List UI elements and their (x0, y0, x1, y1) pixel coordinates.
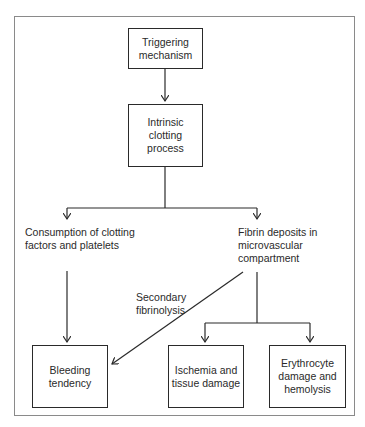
node-bleeding-tendency: Bleeding tendency (32, 345, 108, 408)
node-text: compartment (238, 252, 317, 265)
node-ischemia-tissue-damage: Ischemia and tissue damage (168, 345, 244, 408)
node-text: tissue damage (172, 377, 240, 390)
node-text: Ischemia and (172, 364, 240, 377)
node-erythrocyte-damage-hemolysis: Erythrocyte damage and hemolysis (269, 345, 346, 408)
edge-text: fibrinolysis (136, 304, 186, 317)
node-triggering-mechanism: Triggering mechanism (128, 28, 203, 69)
node-text: factors and platelets (25, 239, 135, 252)
edge-text: Secondary (136, 291, 186, 304)
edge-label-secondary-fibrinolysis: Secondary fibrinolysis (136, 291, 186, 317)
node-text: tendency (49, 377, 92, 390)
node-text: Fibrin deposits in (238, 226, 317, 239)
node-text: Bleeding (49, 364, 92, 377)
node-text: Triggering (139, 36, 193, 49)
node-text: Intrinsic (147, 116, 184, 129)
node-text: microvascular (238, 239, 317, 252)
node-text: Consumption of clotting (25, 226, 135, 239)
node-text: clotting (147, 129, 184, 142)
node-consumption-of-clotting-factors: Consumption of clotting factors and plat… (25, 226, 135, 252)
node-text: Erythrocyte (278, 357, 336, 370)
node-intrinsic-clotting-process: Intrinsic clotting process (128, 104, 203, 167)
node-fibrin-deposits: Fibrin deposits in microvascular compart… (238, 226, 317, 265)
node-text: process (147, 142, 184, 155)
node-text: damage and (278, 370, 336, 383)
node-text: hemolysis (278, 383, 336, 396)
node-text: mechanism (139, 49, 193, 62)
